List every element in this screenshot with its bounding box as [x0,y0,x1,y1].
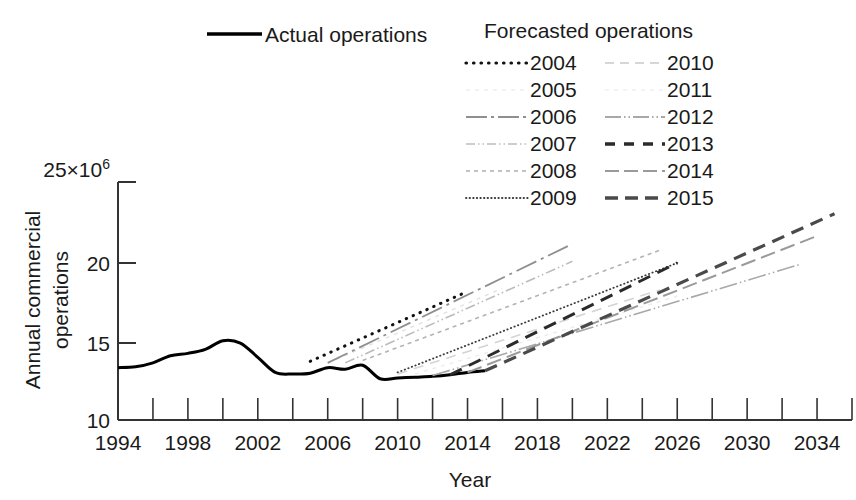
x-tick-label-1998: 1998 [165,431,212,454]
legend-label-2015: 2015 [667,186,714,209]
legend-label-2006: 2006 [530,105,577,128]
legend-label-2010: 2010 [667,51,714,74]
x-axis-title: Year [449,468,491,491]
y-axis-ticks: 20 15 10 [87,182,136,432]
x-tick-label-2026: 2026 [654,431,701,454]
y-tick-label-20: 20 [87,252,110,275]
series-line-2012 [433,265,800,376]
series-line-2011 [415,296,677,374]
legend-label-2008: 2008 [530,159,577,182]
legend-label-2013: 2013 [667,132,714,155]
chart-axes: 25×106 20 15 10 199419982002200620102014… [21,156,852,491]
chart-legend: Actual operations Forecasted operations … [207,19,714,209]
series-line-2010 [398,290,660,374]
x-tick-label-2030: 2030 [724,431,771,454]
series-line-2015 [485,214,835,371]
x-tick-label-2006: 2006 [304,431,351,454]
x-tick-label-2014: 2014 [444,431,491,454]
series-line-2007 [345,261,572,363]
x-tick-label-2018: 2018 [514,431,561,454]
y-axis-exponent-label: 25×106 [43,156,110,181]
legend-label-2012: 2012 [667,105,714,128]
x-tick-label-2002: 2002 [234,431,281,454]
legend-label-2007: 2007 [530,132,577,155]
legend-label-2011: 2011 [667,78,712,101]
y-tick-label-15: 15 [87,332,110,355]
x-tick-label-2010: 2010 [374,431,421,454]
legend-label-2014: 2014 [667,159,714,182]
x-tick-label-2034: 2034 [794,431,841,454]
x-tick-label-2022: 2022 [584,431,631,454]
legend-label-2004: 2004 [530,51,577,74]
y-tick-label-10: 10 [87,409,110,432]
series-line-2013 [450,263,677,375]
y-axis-exponent-text: 25 [43,158,66,181]
legend-label-2005: 2005 [530,78,577,101]
chart-plot-area [118,214,835,380]
y-axis-title-line1: Annual commercial [21,211,44,390]
legend-title-actual: Actual operations [265,23,427,46]
x-tick-label-1994: 1994 [95,431,142,454]
y-axis-title-line2: operations [49,251,72,349]
chart-figure: Actual operations Forecasted operations … [0,0,856,500]
legend-label-2009: 2009 [530,186,577,209]
series-line-2009 [398,263,678,372]
legend-title-forecast: Forecasted operations [484,19,693,42]
x-axis-ticks [118,398,852,420]
x-axis-tick-labels: 1994199820022006201020142018202220262030… [95,431,841,454]
series-line-2005 [328,288,503,363]
